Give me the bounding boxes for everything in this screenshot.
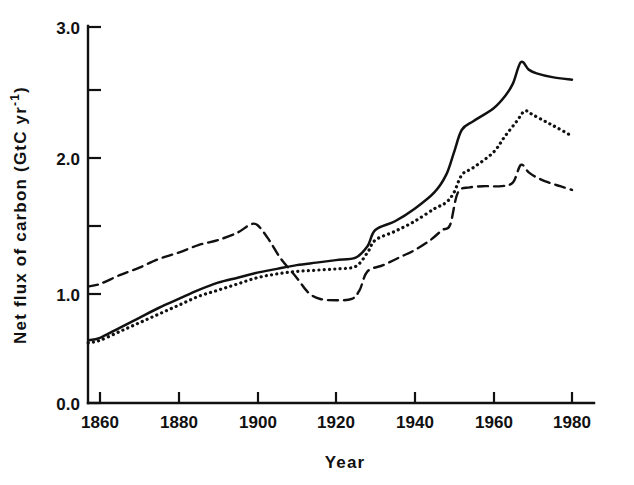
series-line-dashed [88,165,572,301]
y-axis-title-superscript: -1 [8,93,22,106]
x-axis-ticks [100,392,572,403]
y-tick-label-2: 2.0 [56,150,80,169]
x-tick-label-1900: 1900 [239,413,277,432]
y-tick-label-0: 0.0 [56,395,80,414]
chart-figure: 3.0 2.0 1.0 0.0 1860 1880 1900 1920 1940… [0,0,634,485]
x-tick-label-1860: 1860 [81,413,119,432]
x-tick-label-1920: 1920 [317,413,355,432]
line-chart: 3.0 2.0 1.0 0.0 1860 1880 1900 1920 1940… [0,0,634,485]
y-tick-label-3: 3.0 [56,19,80,38]
y-axis-title: Net flux of carbon (GtC yr-1) [8,86,30,344]
x-axis-title: Year [325,453,366,472]
x-tick-label-1880: 1880 [160,413,198,432]
x-tick-label-1980: 1980 [553,413,591,432]
x-tick-label-1940: 1940 [396,413,434,432]
x-tick-label-1960: 1960 [475,413,513,432]
y-axis-title-tail: ) [11,86,30,93]
y-axis-title-main: Net flux of carbon (GtC yr [11,106,30,344]
svg-text:Net flux of carbon (GtC yr-1): Net flux of carbon (GtC yr-1) [8,86,30,344]
series-line-solid [88,62,572,341]
y-tick-label-1: 1.0 [56,286,80,305]
y-axis-ticks [88,27,101,403]
